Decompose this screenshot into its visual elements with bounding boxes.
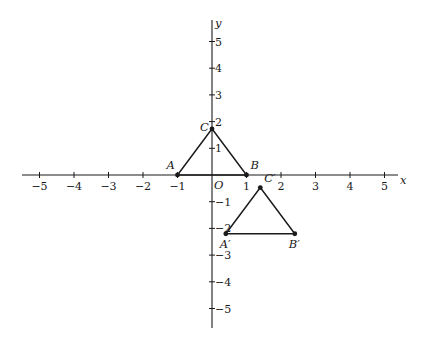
x-tick-label: −1: [169, 180, 185, 193]
triangle-image-outline: [226, 188, 295, 234]
x-tick-label: −3: [100, 180, 116, 193]
vertex-label: A′: [219, 237, 231, 251]
y-tick-label: 4: [215, 62, 222, 75]
vertex-point: [210, 126, 215, 131]
x-tick-label: 5: [381, 180, 388, 193]
x-tick-label: 3: [312, 180, 319, 193]
vertex-label: C: [200, 120, 209, 134]
vertex-point: [292, 231, 297, 236]
vertex-label: B: [250, 158, 259, 172]
vertex-point: [244, 173, 249, 178]
y-tick-label: 2: [215, 116, 222, 129]
triangle-image: A′B′C′: [219, 171, 300, 251]
vertex-label: C′: [264, 171, 276, 185]
x-axis-label: x: [400, 173, 407, 187]
y-tick-label: 3: [215, 89, 222, 102]
y-tick-label: −4: [215, 276, 231, 289]
vertex-label: A: [166, 158, 175, 172]
y-tick-label: 5: [215, 36, 222, 49]
x-tick-label: −4: [66, 180, 82, 193]
y-tick-label: −3: [215, 249, 231, 262]
origin-label: O: [214, 178, 224, 192]
y-axis-label: y: [214, 16, 222, 30]
vertex-point: [175, 173, 180, 178]
vertex-point: [258, 185, 263, 190]
y-tick-label: 1: [215, 142, 222, 155]
vertex-label: B′: [288, 237, 300, 251]
coordinate-plane: x y O −5−4−3−2−11234554321−1−2−3−4−5 ABC…: [0, 0, 423, 342]
x-tick-label: 1: [243, 180, 250, 193]
x-tick-label: −5: [31, 180, 47, 193]
y-tick-label: −5: [215, 303, 231, 316]
x-tick-label: 2: [278, 180, 285, 193]
y-tick-label: −1: [215, 196, 231, 209]
x-tick-label: 4: [347, 180, 354, 193]
vertex-point: [223, 231, 228, 236]
x-tick-label: −2: [135, 180, 151, 193]
